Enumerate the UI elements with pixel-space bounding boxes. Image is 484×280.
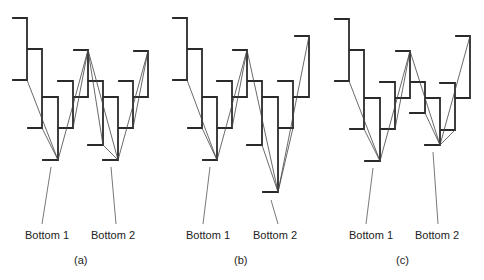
bottom1-label: Bottom 1 [25, 229, 69, 241]
panel-caption: (a) [74, 254, 87, 266]
double-bottom-figure: Bottom 1 Bottom 2 (a) Bottom 1 Bottom 2 … [0, 0, 484, 280]
bottom1-label: Bottom 1 [186, 229, 230, 241]
bottom1-pointer [366, 168, 373, 224]
panel-c: Bottom 1 Bottom 2 (c) [335, 19, 470, 266]
panel-b: Bottom 1 Bottom 2 (b) [173, 18, 309, 266]
bottom2-pointer [433, 152, 438, 224]
bottom1-pointer [203, 167, 210, 224]
bottom2-pointer [271, 200, 278, 224]
bottom2-label: Bottom 2 [253, 229, 297, 241]
bottom1-pointer [42, 167, 51, 224]
bottom1-label: Bottom 1 [349, 229, 393, 241]
price-step-line [173, 18, 309, 192]
panel-a: Bottom 1 Bottom 2 (a) [13, 18, 148, 266]
bottom2-pointer [111, 167, 116, 224]
panel-caption: (b) [234, 254, 247, 266]
bottom2-label: Bottom 2 [415, 229, 459, 241]
panel-caption: (c) [396, 254, 409, 266]
trendline [187, 36, 309, 192]
bottom2-label: Bottom 2 [91, 229, 135, 241]
